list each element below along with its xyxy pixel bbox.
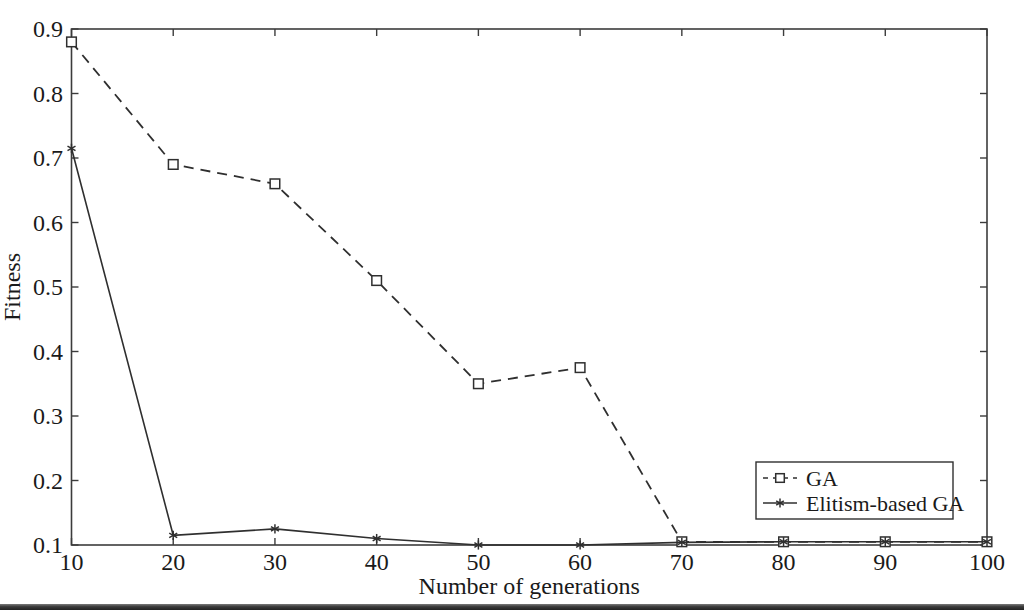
x-tick-label: 90 [873, 549, 897, 575]
x-tick-label: 40 [365, 549, 389, 575]
x-axis-label: Number of generations [419, 573, 640, 599]
y-tick-label: 0.7 [33, 145, 63, 171]
y-tick-label: 0.8 [33, 81, 63, 107]
page-edge-band [0, 604, 1024, 610]
x-tick-label: 50 [466, 549, 490, 575]
ga-square-marker [168, 160, 178, 170]
legend-elitism-label: Elitism-based GA [806, 491, 964, 516]
fitness-chart: 1020304050607080901000.10.20.30.40.50.60… [0, 0, 1024, 612]
y-tick-label: 0.4 [33, 339, 63, 365]
ga-square-marker [575, 363, 585, 373]
y-tick-label: 0.5 [33, 274, 63, 300]
x-tick-label: 60 [568, 549, 592, 575]
ga-square-marker [474, 379, 484, 389]
x-tick-label: 100 [969, 549, 1005, 575]
y-tick-label: 0.3 [33, 403, 63, 429]
y-axis-label: Fitness [0, 253, 25, 321]
scanned-figure: 1020304050607080901000.10.20.30.40.50.60… [0, 0, 1024, 612]
y-tick-label: 0.2 [33, 468, 63, 494]
ga-square-marker [372, 276, 382, 286]
x-tick-label: 20 [161, 549, 185, 575]
x-tick-label: 30 [263, 549, 287, 575]
y-tick-label: 0.1 [33, 532, 63, 558]
ga-square-marker [67, 37, 77, 47]
ga-square-marker [776, 474, 785, 483]
x-tick-label: 70 [670, 549, 694, 575]
legend: GAElitism-based GA [756, 462, 964, 519]
x-tick-label: 80 [772, 549, 796, 575]
ga-square-marker [270, 179, 280, 189]
y-tick-label: 0.9 [33, 16, 63, 42]
legend-ga-label: GA [806, 466, 838, 491]
x-tick-label: 10 [60, 549, 84, 575]
y-tick-label: 0.6 [33, 210, 63, 236]
